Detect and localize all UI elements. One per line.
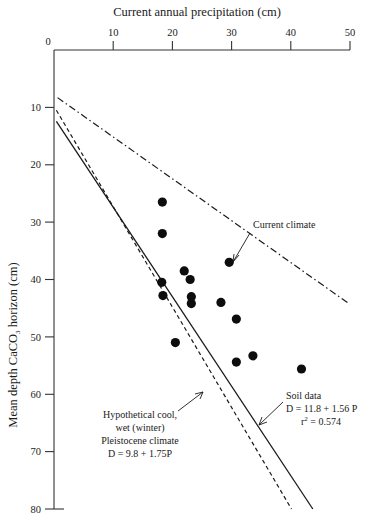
soil-data-label: Soil data bbox=[286, 390, 322, 401]
data-point bbox=[158, 291, 167, 300]
y-axis-title-tail: horizon (cm) bbox=[6, 262, 20, 330]
x-tick-label-10: 10 bbox=[108, 27, 119, 38]
chart-canvas: Current annual precipitation (cm) Mean d… bbox=[0, 0, 381, 522]
data-point bbox=[158, 197, 167, 206]
data-point bbox=[297, 364, 306, 373]
y-tick-label-40: 40 bbox=[31, 274, 42, 285]
data-point bbox=[187, 299, 196, 308]
current-climate-label: Current climate bbox=[253, 219, 316, 230]
data-point bbox=[157, 278, 166, 287]
data-point bbox=[180, 266, 189, 275]
current-climate-leader bbox=[233, 233, 250, 262]
y-axis-title: Mean depth CaCO3 horizon (cm) bbox=[6, 262, 22, 427]
hypothetical-line2: wet (winter) bbox=[115, 422, 164, 434]
y-tick-label-80: 80 bbox=[31, 504, 42, 515]
data-point bbox=[171, 338, 180, 347]
current-climate-arrowhead bbox=[233, 254, 239, 262]
data-point bbox=[225, 258, 234, 267]
annotation-current-climate: Current climate bbox=[233, 219, 316, 262]
x-tick-label-50: 50 bbox=[345, 27, 356, 38]
series-line-dashed bbox=[56, 110, 291, 509]
series-line-dash-dot bbox=[58, 98, 350, 305]
hypothetical-line3: Pleistocene climate bbox=[101, 435, 179, 446]
y-tick-label-60: 60 bbox=[31, 389, 42, 400]
x-tick-label-40: 40 bbox=[286, 27, 297, 38]
figure-container: Current annual precipitation (cm) Mean d… bbox=[0, 0, 381, 522]
y-axis-tick-labels: 10 20 30 40 50 60 70 80 bbox=[31, 102, 42, 515]
data-point bbox=[248, 351, 257, 360]
x-tick-label-30: 30 bbox=[226, 27, 237, 38]
y-axis-ticks bbox=[45, 107, 54, 509]
y-tick-label-30: 30 bbox=[31, 217, 42, 228]
x-axis-tick-labels: 0 10 20 30 40 50 bbox=[45, 27, 355, 47]
data-point bbox=[216, 298, 225, 307]
y-tick-label-10: 10 bbox=[31, 102, 42, 113]
regression-lines-layer bbox=[56, 98, 350, 509]
data-point bbox=[186, 275, 195, 284]
y-tick-label-70: 70 bbox=[31, 446, 42, 457]
hypothetical-leader bbox=[178, 392, 203, 411]
soil-data-equation: D = 11.8 + 1.56 P bbox=[286, 403, 358, 414]
svg-text:Mean depth CaCO3 horizon (cm): Mean depth CaCO3 horizon (cm) bbox=[6, 262, 22, 427]
series-line-solid bbox=[56, 121, 312, 509]
soil-data-leader bbox=[259, 402, 283, 425]
x-axis-ticks bbox=[113, 41, 350, 50]
y-axis-title-main: Mean depth CaCO bbox=[6, 334, 20, 428]
annotation-soil-data: Soil data D = 11.8 + 1.56 P r2 = 0.574 bbox=[259, 390, 358, 427]
data-point bbox=[232, 314, 241, 323]
hypothetical-line4: D = 9.8 + 1.75P bbox=[108, 448, 173, 459]
hypothetical-line1: Hypothetical cool, bbox=[103, 409, 177, 420]
soil-data-r2-tail: = 0.574 bbox=[308, 416, 341, 427]
x-axis-title: Current annual precipitation (cm) bbox=[113, 5, 281, 19]
soil-data-r2: r2 = 0.574 bbox=[301, 415, 341, 427]
x-tick-label-0: 0 bbox=[45, 36, 50, 47]
data-point bbox=[158, 229, 167, 238]
y-tick-label-20: 20 bbox=[31, 159, 42, 170]
annotation-hypothetical-climate: Hypothetical cool, wet (winter) Pleistoc… bbox=[101, 392, 203, 459]
data-point bbox=[232, 358, 241, 367]
y-tick-label-50: 50 bbox=[31, 332, 42, 343]
x-tick-label-20: 20 bbox=[167, 27, 178, 38]
